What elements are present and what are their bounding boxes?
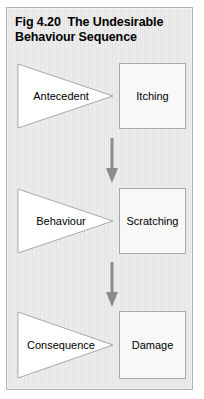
triangle-label: Antecedent bbox=[21, 90, 101, 103]
figure-frame: Fig 4.20 The Undesirable Behaviour Seque… bbox=[6, 7, 193, 390]
triangle-label: Behaviour bbox=[21, 215, 101, 228]
triangle-shape-antecedent: Antecedent bbox=[17, 63, 117, 129]
box-shape-itching: Itching bbox=[119, 63, 186, 129]
sequence-row: Consequence Damage bbox=[7, 311, 194, 379]
box-label: Scratching bbox=[127, 215, 179, 228]
connector-arrow-2 bbox=[104, 262, 120, 308]
box-label: Itching bbox=[136, 90, 168, 103]
box-label: Damage bbox=[132, 339, 174, 352]
sequence-row: Antecedent Itching bbox=[7, 63, 194, 129]
triangle-shape-behaviour: Behaviour bbox=[17, 188, 117, 254]
figure-title: Fig 4.20 The Undesirable Behaviour Seque… bbox=[15, 15, 187, 45]
sequence-row: Behaviour Scratching bbox=[7, 188, 194, 254]
down-arrow-icon bbox=[104, 138, 120, 184]
triangle-label: Consequence bbox=[21, 339, 101, 352]
down-arrow-icon bbox=[104, 262, 120, 308]
connector-arrow-1 bbox=[104, 138, 120, 184]
box-shape-scratching: Scratching bbox=[119, 188, 186, 254]
box-shape-damage: Damage bbox=[119, 311, 186, 379]
triangle-shape-consequence: Consequence bbox=[17, 311, 117, 379]
